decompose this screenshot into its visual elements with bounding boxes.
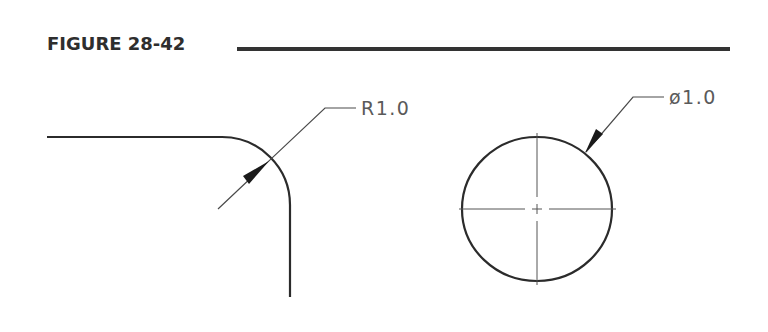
radius-arrowhead-icon <box>243 161 269 184</box>
rounded-corner-view <box>47 108 356 297</box>
diameter-dimension-label: ø1.0 <box>669 86 717 108</box>
radius-leader-line <box>218 108 356 209</box>
radius-dimension-label: R1.0 <box>361 97 410 119</box>
corner-outline <box>47 137 290 297</box>
diameter-arrowhead-icon <box>585 129 603 153</box>
technical-drawing <box>0 0 768 332</box>
circle-view <box>459 97 664 285</box>
diameter-leader-line <box>586 97 664 152</box>
